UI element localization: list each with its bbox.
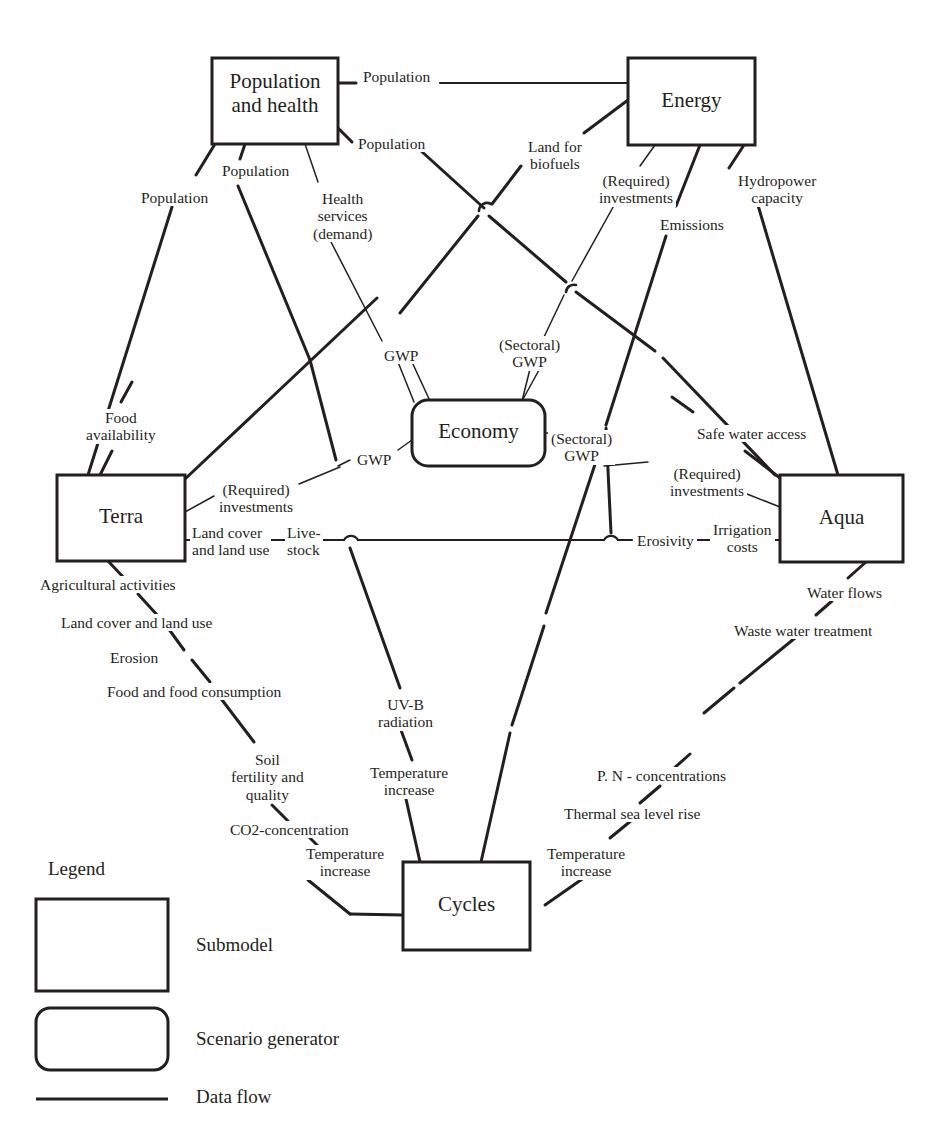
edge-water-flows-d <box>704 688 734 713</box>
edge-req-inv-terra-b <box>299 467 340 484</box>
edge-label-waste-water-treatment: Waste water treatment <box>731 622 875 639</box>
edge-ph-right-c <box>489 216 566 282</box>
node-label-terra: Terra <box>57 505 185 529</box>
edge-water-flows-c <box>740 638 795 683</box>
edge-health-services-b <box>330 240 382 341</box>
edge-label-food-and-food-consumption: Food and food consumption <box>104 683 284 700</box>
edge-label-gwp-terra: GWP <box>354 451 394 468</box>
edge-label-soil-fertility-and-quality: Soil fertility and quality <box>228 751 307 803</box>
edge-terra-cycles-d <box>192 660 210 682</box>
edge-label-health-services-demand: Health services (demand) <box>310 190 375 242</box>
edge-label-population-diag-right: Population <box>355 135 428 152</box>
edge-label-temperature-increase-right: Temperature increase <box>544 845 628 880</box>
edge-terra-cycles-h <box>308 880 350 914</box>
edge-label-safe-water-access: Safe water access <box>694 425 809 442</box>
edge-req-inv-aqua <box>747 494 780 507</box>
edge-terra-cycles-b <box>138 594 158 616</box>
edge-terra-cycles-f <box>272 805 288 821</box>
edge-label-temperature-increase-left: Temperature increase <box>303 845 387 880</box>
legend-label-data-flow: Data flow <box>196 1086 271 1108</box>
node-label-population-health: Population and health <box>212 70 338 118</box>
edge-ph-right-b <box>420 150 484 208</box>
edge-label-emissions: Emissions <box>657 216 727 233</box>
edge-label-erosion: Erosion <box>107 649 161 666</box>
edge-terra-aqua-jump1 <box>344 536 358 540</box>
edge-label-land-cover-and-land-use-2: Land cover and land use <box>58 614 216 631</box>
edge-emissions-e <box>481 733 510 862</box>
edge-sectoral-gwp-top-a <box>522 370 539 401</box>
edge-label-irrigation-costs: Irrigation costs <box>710 521 775 556</box>
legend-label-scenario-generator: Scenario generator <box>196 1028 339 1050</box>
edge-label-land-for-biofuels: Land for biofuels <box>525 138 585 173</box>
edge-label-thermal-sea-level-rise: Thermal sea level rise <box>561 805 703 822</box>
jump-arc-2 <box>566 285 576 292</box>
edge-hydropower-a <box>729 145 744 168</box>
edge-label-agricultural-activities: Agricultural activities <box>37 576 179 593</box>
edge-safe-water-b <box>672 397 693 412</box>
edge-label-population-left-inner: Population <box>219 162 292 179</box>
edge-terra-aqua-jump2 <box>604 536 618 540</box>
edge-label-land-cover-and-land-use: Land cover and land use <box>190 524 271 559</box>
edge-req-inv-energy-a <box>640 145 655 166</box>
edge-land-biofuels-b <box>492 166 521 204</box>
edge-water-flows-a <box>848 562 866 578</box>
legend-label-submodel: Submodel <box>196 934 273 956</box>
edge-terra-cycles-i <box>350 914 403 915</box>
edge-label-co2-concentration: CO2-concentration <box>227 821 352 838</box>
edge-uvb-a <box>350 548 400 688</box>
edge-label-uv-b-radiation: UV-B radiation <box>375 696 436 731</box>
edge-label-pn-concentrations: P. N - concentrations <box>594 767 729 784</box>
edge-health-services-a <box>305 144 318 182</box>
edge-emissions-a <box>676 145 700 206</box>
edge-label-water-flows: Water flows <box>804 584 885 601</box>
edge-ph-inner-c <box>310 360 336 460</box>
edge-ph-inner-b <box>238 186 310 360</box>
edge-req-inv-energy-b <box>572 200 617 281</box>
legend-title: Legend <box>48 858 105 880</box>
legend-swatch-submodel <box>36 899 168 991</box>
edge-water-flows-g <box>610 820 632 838</box>
edge-gwp-upper-a <box>412 362 430 401</box>
edge-label-required-investments-energy: (Required) investments <box>596 172 676 207</box>
edge-label-required-investments-terra: (Required) investments <box>216 481 296 516</box>
edge-water-flows-f <box>640 786 660 803</box>
edge-label-erosivity: Erosivity <box>634 532 697 549</box>
edge-ph-inner-a <box>240 144 245 159</box>
edge-land-biofuels-d <box>185 298 377 479</box>
edge-label-food-availability: Food availability <box>83 409 159 444</box>
legend-swatch-scenario-generator <box>36 1008 168 1070</box>
edge-emissions-b <box>606 236 666 425</box>
node-label-aqua: Aqua <box>780 506 903 530</box>
edge-label-sectoral-gwp-upper: (Sectoral) GWP <box>496 336 563 371</box>
edge-emissions-d <box>512 626 544 725</box>
edge-food-availability-a <box>100 451 112 475</box>
edge-label-population-left-outer: Population <box>138 189 211 206</box>
diagram-canvas: Population and health Energy Terra Aqua … <box>0 0 946 1144</box>
edge-land-biofuels-c <box>400 216 478 313</box>
edge-label-sectoral-gwp-right: (Sectoral) GWP <box>548 430 615 465</box>
edge-label-gwp-left-upper: GWP <box>381 347 421 364</box>
node-label-economy: Economy <box>412 420 545 444</box>
edge-ph-terra-outer <box>196 144 215 175</box>
edge-food-availability-b <box>121 382 132 402</box>
edge-label-livestock: Live- stock <box>285 524 323 559</box>
edge-label-population-top: Population <box>360 68 433 85</box>
node-label-cycles: Cycles <box>403 893 530 917</box>
edge-uvb-c <box>404 790 420 862</box>
node-label-energy: Energy <box>628 89 755 113</box>
edge-label-hydropower-capacity: Hydropower capacity <box>735 172 819 207</box>
edge-gwp-terra-a <box>398 440 412 450</box>
edge-label-temperature-increase-mid: Temperature increase <box>367 764 451 799</box>
edge-safe-water-a <box>745 451 780 478</box>
edge-water-flows-b <box>816 601 832 615</box>
edge-ph-right-e <box>663 358 775 475</box>
edge-gwp-terra-b <box>338 460 350 466</box>
edge-label-required-investments-aqua: (Required) investments <box>667 465 747 500</box>
edge-req-inv-terra-a <box>185 496 214 512</box>
edge-land-biofuels-a <box>584 100 628 133</box>
edge-health-services-c <box>398 362 414 402</box>
edge-ph-right-d <box>576 292 655 351</box>
